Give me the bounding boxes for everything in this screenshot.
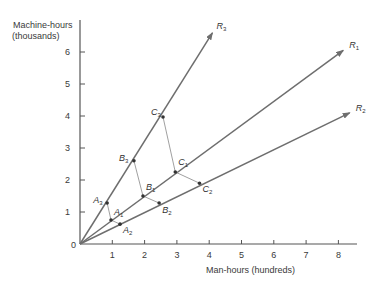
point-label: A1 [113, 207, 124, 218]
x-tick-label: 5 [239, 250, 244, 260]
y-tick-label: 4 [65, 111, 70, 121]
segment-B1-B2 [143, 196, 159, 203]
point-A3 [105, 201, 109, 205]
x-tick-label: 3 [174, 250, 179, 260]
isoquant-diagram: 12345678 123456 0 Machine-hours (thousan… [0, 0, 376, 281]
y-axis-label-line2: (thousands) [12, 31, 60, 41]
y-tick-label: 1 [65, 207, 70, 217]
x-ticks: 12345678 [110, 240, 341, 260]
x-tick-label: 2 [142, 250, 147, 260]
y-tick-label: 5 [65, 79, 70, 89]
y-ticks: 123456 [65, 47, 85, 217]
point-label: B1 [146, 182, 156, 193]
segment-B3-B1 [134, 161, 143, 196]
rays: R3R1R2 [80, 21, 366, 244]
point-label: B3 [119, 153, 129, 164]
y-tick-label: 2 [65, 175, 70, 185]
point-C1 [173, 170, 177, 174]
point-B2 [157, 201, 161, 205]
x-tick-label: 8 [336, 250, 341, 260]
point-A1 [109, 218, 113, 222]
point-label: C2 [203, 184, 214, 195]
ray-label: R2 [356, 103, 367, 114]
ray-label: R1 [349, 40, 360, 51]
segment-A3-A1 [107, 203, 111, 220]
x-axis-label: Man-hours (hundreds) [206, 265, 295, 275]
y-tick-label: 6 [65, 47, 70, 57]
origin-label: 0 [71, 240, 76, 250]
ray-label: R3 [216, 21, 227, 32]
x-tick-label: 6 [271, 250, 276, 260]
point-label: B2 [162, 205, 172, 216]
point-label: A3 [92, 195, 103, 206]
point-C3 [161, 115, 165, 119]
segment-C3-C1 [163, 117, 175, 172]
point-label: C1 [178, 157, 189, 168]
y-axis-label-line1: Machine-hours [13, 20, 73, 30]
point-label: A2 [122, 225, 133, 236]
point-B3 [132, 159, 136, 163]
x-tick-label: 4 [207, 250, 212, 260]
point-C2 [198, 181, 202, 185]
point-label: C3 [151, 107, 162, 118]
x-tick-label: 1 [110, 250, 115, 260]
point-A2 [118, 222, 122, 226]
y-tick-label: 3 [65, 143, 70, 153]
x-tick-label: 7 [304, 250, 309, 260]
point-B1 [141, 194, 145, 198]
segment-C1-C2 [175, 172, 199, 183]
